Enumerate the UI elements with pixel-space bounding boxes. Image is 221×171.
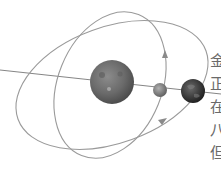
side-text-line: 正 xyxy=(210,73,221,96)
inner-planet xyxy=(153,83,167,97)
sun-spot xyxy=(118,72,123,77)
sun-spot xyxy=(99,72,105,78)
side-text-line: 八 xyxy=(210,119,221,142)
arrow-up-right-icon xyxy=(158,118,167,125)
sun xyxy=(90,60,134,104)
side-text-line: 但 xyxy=(210,142,221,165)
orbit-diagram xyxy=(0,0,221,171)
side-text-line: 金 xyxy=(210,50,221,73)
side-text-line: 在 xyxy=(210,96,221,119)
earth xyxy=(181,79,205,103)
sun-spot xyxy=(107,87,111,91)
clipped-side-text: 金 正 在 八 但 xyxy=(210,50,221,165)
arrow-up-icon xyxy=(162,50,168,58)
